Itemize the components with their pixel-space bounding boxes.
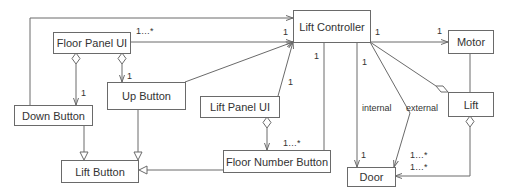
class-motor: Motor (448, 30, 494, 54)
class-floor-panel-ui: Floor Panel UI (53, 32, 131, 54)
mult-lc-fnb: 1 (314, 51, 319, 61)
role-external: external (406, 103, 438, 113)
up-button-to-lift-controller (185, 42, 293, 82)
class-floor-number-button: Floor Number Button (223, 150, 331, 173)
mult-fpui-lc-src: 1…* (136, 26, 154, 36)
class-lift-button: Lift Button (61, 160, 139, 183)
lift-controller-aggregates-lift (370, 42, 436, 86)
class-lift-panel-ui: Lift Panel UI (200, 96, 280, 118)
mult-lc-lpui: 1 (288, 77, 293, 87)
lift-aggregates-door (395, 127, 470, 176)
mult-fpui-up: 1 (127, 71, 132, 81)
class-door: Door (347, 167, 396, 187)
class-down-button: Down Button (14, 105, 93, 126)
lift-panel-to-lift-controller (278, 42, 293, 96)
mult-door-external: 1…* (410, 150, 428, 160)
role-internal: internal (362, 103, 392, 113)
mult-lc-motor-dst: 1 (437, 26, 442, 36)
mult-lc-door-internal: 1 (362, 57, 367, 67)
mult-lc-motor-src: 1 (375, 27, 380, 37)
mult-lpui-fnb: 1…* (283, 138, 301, 148)
class-lift-controller: Lift Controller (293, 10, 371, 43)
mult-door-internal: 1 (361, 150, 366, 160)
class-lift: Lift (448, 92, 494, 117)
mult-fpui-down: 1 (81, 88, 86, 98)
mult-fpui-lc-dst: 1 (283, 27, 288, 37)
mult-door-lift: 1…* (410, 162, 428, 172)
class-up-button: Up Button (107, 82, 186, 110)
